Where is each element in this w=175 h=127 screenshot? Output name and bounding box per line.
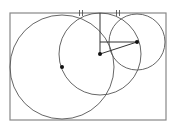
rectangle [10,13,166,120]
segments [100,13,137,54]
center-connector [100,42,137,54]
geometry-diagram [0,0,175,127]
medium-center-point [98,52,102,56]
circles [10,13,165,119]
small-center-point [135,40,139,44]
large-center-point [60,65,64,69]
bounding-rectangle [10,13,166,120]
